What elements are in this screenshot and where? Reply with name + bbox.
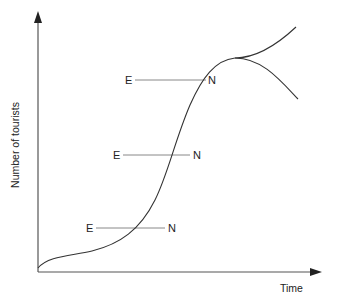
diagram-svg <box>0 0 343 304</box>
marker-upper-right-label: N <box>208 75 216 86</box>
y-axis-arrow-icon <box>34 11 42 23</box>
marker-upper-left-label: E <box>125 75 132 86</box>
diagram-canvas: E N E N E N Number of tourists Time <box>0 0 343 304</box>
curve-branch-upper <box>235 27 296 58</box>
marker-middle-left-label: E <box>113 150 120 161</box>
marker-middle-right-label: N <box>193 150 201 161</box>
x-axis-label: Time <box>280 282 303 294</box>
growth-curve <box>38 58 235 268</box>
curve-branch-lower <box>235 58 298 99</box>
marker-lower-left-label: E <box>86 223 93 234</box>
y-axis-label: Number of tourists <box>9 102 21 188</box>
marker-lower-right-label: N <box>168 223 176 234</box>
x-axis-arrow-icon <box>310 268 322 276</box>
